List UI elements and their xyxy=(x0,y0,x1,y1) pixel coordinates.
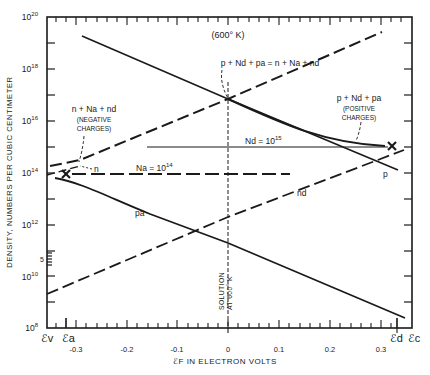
y-tick-labels: 1020 1018 1016 1014 1012 1010 108 5 xyxy=(22,11,44,333)
curve-p xyxy=(82,36,398,170)
chart-title: (600° K) xyxy=(211,30,244,40)
positive-label-1: p + Nd + pa xyxy=(337,93,382,103)
x-axis-title: ℰF IN ELECTRON VOLTS xyxy=(173,357,277,366)
nd-const-label: Nd = 1015 xyxy=(245,135,282,146)
x-tick-labels: -0.3 -0.2 -0.1 0 0.1 0.2 0.3 xyxy=(70,345,387,354)
svg-text:-0.1: -0.1 xyxy=(171,345,184,354)
solution-label: SOLUTION AT 600° K xyxy=(218,272,233,310)
equation-label: p + Nd + pa = n + Na + nd xyxy=(221,58,320,68)
svg-text:ℰv: ℰv xyxy=(41,332,54,344)
svg-text:108: 108 xyxy=(25,322,38,333)
svg-text:1020: 1020 xyxy=(22,11,39,22)
n-arrow xyxy=(80,166,92,169)
svg-text:ℰc: ℰc xyxy=(408,332,421,344)
svg-text:-0.2: -0.2 xyxy=(121,345,134,354)
svg-text:1016: 1016 xyxy=(22,115,39,126)
negative-label-3: CHARGES) xyxy=(77,125,111,133)
svg-text:0.2: 0.2 xyxy=(325,345,335,354)
svg-text:SOLUTION: SOLUTION xyxy=(218,272,225,310)
minor-five-label: 5 xyxy=(40,256,44,263)
positive-arrow xyxy=(356,122,361,141)
svg-text:1010: 1010 xyxy=(22,271,39,282)
svg-text:0: 0 xyxy=(226,345,230,354)
y-axis-ticks xyxy=(47,43,412,302)
equation-arrow xyxy=(221,70,228,98)
curve-nd xyxy=(47,150,404,294)
x-marker-right xyxy=(388,142,396,150)
x-marker-left xyxy=(62,170,70,178)
svg-text:-0.3: -0.3 xyxy=(70,345,83,354)
negative-label-2: (NEGATIVE xyxy=(77,116,112,124)
energy-level-markers: ℰv ℰa ℰd ℰc xyxy=(41,332,421,344)
p-label: p xyxy=(383,169,388,179)
svg-text:1014: 1014 xyxy=(22,167,39,178)
n-label: n xyxy=(94,164,99,174)
curve-negative-charges xyxy=(50,32,382,166)
y-axis-title: DENSITY, NUMBERS PER CUBIC CENTIMETER xyxy=(5,76,14,267)
positive-label-2: (POSITIVE xyxy=(343,105,376,113)
svg-text:0.1: 0.1 xyxy=(274,345,284,354)
svg-text:1012: 1012 xyxy=(22,219,39,230)
svg-text:1018: 1018 xyxy=(22,63,39,74)
svg-text:ℰd: ℰd xyxy=(390,332,403,344)
nd-curve-label: nd xyxy=(297,188,307,198)
pa-label: pa xyxy=(135,208,145,218)
semiconductor-charge-balance-chart: 1020 1018 1016 1014 1012 1010 108 5 DENS… xyxy=(0,0,430,375)
svg-text:ℰa: ℰa xyxy=(62,332,76,344)
negative-label-1: n + Na + nd xyxy=(72,104,117,114)
svg-text:0.3: 0.3 xyxy=(376,345,386,354)
curve-labels: p + Nd + pa = n + Na + nd n + Na + nd (N… xyxy=(72,58,388,218)
na-label: Na = 1014 xyxy=(136,162,173,173)
svg-text:AT 600° K: AT 600° K xyxy=(226,276,233,310)
positive-label-3: CHARGES) xyxy=(342,114,376,122)
